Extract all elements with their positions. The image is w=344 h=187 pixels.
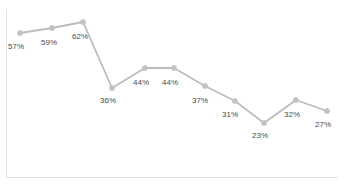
data-point-label: 44% (133, 78, 149, 87)
data-point-marker[interactable] (80, 19, 85, 24)
data-point-marker[interactable] (17, 30, 22, 35)
data-point-marker[interactable] (49, 25, 54, 30)
data-point-marker[interactable] (142, 65, 147, 70)
data-point-marker[interactable] (232, 98, 237, 103)
data-point-label: 62% (72, 32, 88, 41)
data-point-label: 37% (192, 96, 208, 105)
data-point-label: 31% (222, 110, 238, 119)
data-point-marker[interactable] (171, 65, 176, 70)
data-point-marker[interactable] (109, 85, 114, 90)
data-point-label: 32% (284, 110, 300, 119)
data-point-label: 59% (41, 38, 57, 47)
line-chart-figure: 57%59%62%36%44%44%37%31%23%32%27% (0, 0, 344, 187)
data-point-label: 23% (252, 131, 268, 140)
data-point-marker[interactable] (324, 108, 329, 113)
data-point-marker[interactable] (261, 120, 266, 125)
data-point-label: 36% (100, 96, 116, 105)
data-point-label: 57% (8, 42, 24, 51)
chart-plot-area (0, 0, 344, 187)
data-point-marker[interactable] (293, 97, 298, 102)
data-point-label: 27% (315, 120, 331, 129)
series-line-path (20, 22, 327, 123)
data-point-marker[interactable] (202, 83, 207, 88)
data-point-label: 44% (162, 78, 178, 87)
